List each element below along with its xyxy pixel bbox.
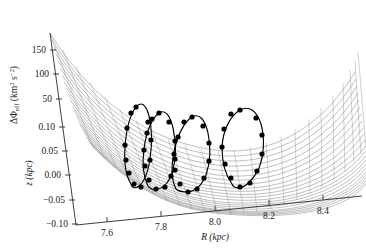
x-axis-tick-7-6: 7.6: [101, 228, 113, 238]
r-axis-title-text: R (kpc): [200, 232, 229, 243]
x-axis-tick-8-4: 8.4: [317, 206, 329, 216]
effective-potential-surface-plot: 150 100 50 0.10 0.05 0.00 −0.05 −0.10 7.…: [0, 0, 366, 248]
y-axis-tick-0-05: 0.05: [41, 146, 58, 156]
z-axis-tick-100: 100: [35, 69, 50, 79]
y-axis-tick-0-00: 0.00: [44, 170, 61, 180]
x-axis-tick-7-8: 7.8: [155, 222, 167, 232]
z-axis-title-text: z (kpc): [24, 160, 35, 187]
units-close: ): [9, 66, 20, 69]
units-open: (km: [9, 85, 20, 103]
z-axis-tick-150: 150: [32, 45, 47, 55]
x-axis-tick-8-0: 8.0: [209, 217, 221, 227]
z-axis-title: z (kpc): [24, 160, 35, 187]
y-axis-tick-neg-0-10: −0.10: [46, 219, 68, 229]
z-axis-tick-50: 50: [43, 94, 53, 104]
phi-symbol: Φ: [9, 111, 19, 118]
x-axis-tick-8-2: 8.2: [263, 211, 275, 221]
y-axis-tick-neg-0-05: −0.05: [43, 195, 65, 205]
y-axis-tick-0-10: 0.10: [38, 122, 55, 132]
